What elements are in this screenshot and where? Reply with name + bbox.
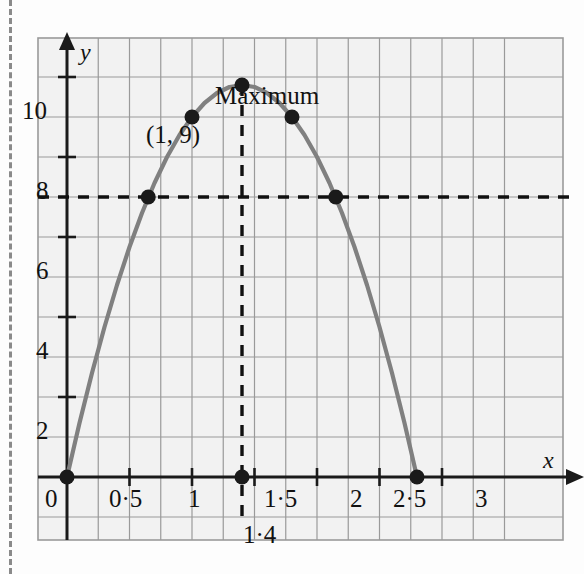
y-tick-label-10: 10 (22, 98, 47, 123)
data-point (141, 190, 156, 205)
x-tick-label-2-5: 2·5 (393, 486, 426, 511)
maximum-annotation: Maximum (215, 83, 319, 108)
x-tick-label-3: 3 (475, 486, 488, 511)
y-tick-label-6: 6 (36, 258, 49, 283)
x-tick-label-2: 2 (350, 486, 363, 511)
plot-area: 10 8 6 4 2 0 0·5 1 1·5 2 2·5 3 y x Maxim… (0, 0, 584, 574)
x-tick-label-0: 0 (45, 486, 58, 511)
x-tick-label-0-5: 0·5 (109, 486, 142, 511)
point-annotation: (1, 9) (146, 122, 200, 147)
data-point (285, 110, 300, 125)
data-point (235, 470, 250, 485)
x-axis-name: x (543, 448, 554, 472)
graph-figure: 10 8 6 4 2 0 0·5 1 1·5 2 2·5 3 y x Maxim… (0, 0, 584, 574)
x-tick-label-1: 1 (188, 486, 201, 511)
data-point (60, 470, 75, 485)
y-tick-label-4: 4 (36, 338, 49, 363)
data-point (410, 470, 425, 485)
data-point (328, 190, 343, 205)
x-tick-label-1-5: 1·5 (264, 486, 297, 511)
y-tick-label-2: 2 (36, 418, 49, 443)
x-axis-arrowhead (566, 469, 584, 485)
y-axis-name: y (80, 40, 91, 64)
x-value-annotation: 1·4 (243, 522, 276, 547)
y-tick-label-8: 8 (36, 178, 49, 203)
